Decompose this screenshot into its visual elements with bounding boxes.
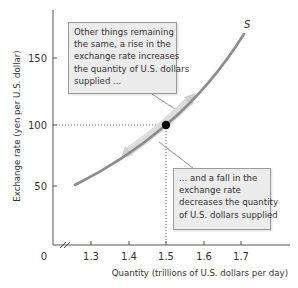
callout-fall: ... and a fall in the exchange rate decr…	[173, 168, 271, 230]
callout-fall-line: decreases the quantity	[179, 196, 265, 208]
callout-rise: Other things remaining the same, a rise …	[68, 22, 177, 94]
y-tick-50: 50	[34, 181, 47, 192]
x-tick-1.7: 1.7	[233, 251, 249, 262]
callout-rise-line: the quantity of U.S. dollars	[74, 63, 171, 75]
origin-label: 0	[41, 251, 47, 262]
supply-curve-label: S	[244, 19, 251, 30]
callout-rise-line: supplied ...	[74, 75, 171, 87]
leader-line-bottom	[159, 142, 193, 168]
callout-rise-line: the same, a rise in the	[74, 38, 171, 50]
movement-arrow-band	[128, 100, 190, 152]
x-axis-title: Quantity (trillions of U.S. dollars per …	[112, 268, 288, 278]
callout-rise-line: exchange rate increases	[74, 50, 171, 62]
x-tick-1.3: 1.3	[83, 251, 99, 262]
x-tick-1.4: 1.4	[121, 251, 137, 262]
x-tick-1.6: 1.6	[196, 251, 212, 262]
x-tick-1.5: 1.5	[158, 251, 174, 262]
callout-fall-line: of U.S. dollars supplied	[179, 209, 265, 221]
y-tick-150: 150	[28, 53, 47, 64]
y-axis-title: Exchange rate (yen per U.S. dollar)	[12, 50, 22, 201]
y-ticks	[53, 58, 57, 186]
callout-fall-line: ... and a fall in the	[179, 172, 265, 184]
callout-rise-line: Other things remaining	[74, 26, 171, 38]
leader-line-top	[152, 94, 178, 111]
y-tick-100: 100	[28, 120, 47, 131]
callout-fall-line: exchange rate	[179, 184, 265, 196]
equilibrium-point	[162, 121, 170, 129]
